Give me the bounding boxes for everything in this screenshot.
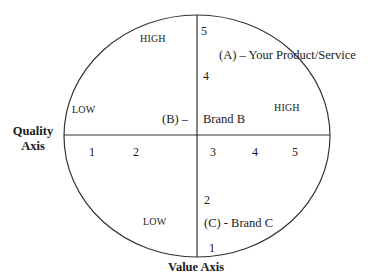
- quality-tick-1: 1: [89, 146, 95, 158]
- quality-axis-title: Quality Axis: [8, 125, 58, 152]
- value-tick-1: 1: [209, 242, 215, 254]
- point-c-label: (C) - Brand C: [204, 217, 273, 230]
- value-tick-4: 4: [203, 70, 209, 82]
- quality-axis-title-line1: Quality: [8, 125, 58, 138]
- value-high-label: HIGH: [140, 34, 166, 44]
- quality-low-label: LOW: [72, 105, 95, 115]
- value-low-label: LOW: [143, 217, 166, 227]
- quality-tick-4: 4: [252, 146, 258, 158]
- value-tick-2: 2: [204, 194, 210, 206]
- quality-axis-title-line2: Axis: [8, 140, 58, 153]
- point-b-label: Brand B: [203, 113, 245, 126]
- perceptual-map: HIGH LOW HIGH LOW 5 4 2 1 1 2 3 4 5 (A) …: [0, 0, 370, 280]
- quality-tick-2: 2: [133, 146, 139, 158]
- point-a-label: (A) – Your Product/Service: [219, 49, 356, 62]
- value-axis-title: Value Axis: [168, 261, 224, 274]
- quality-high-label: HIGH: [274, 103, 300, 113]
- quality-tick-5: 5: [292, 146, 298, 158]
- quality-tick-3: 3: [210, 146, 216, 158]
- value-tick-5: 5: [201, 25, 207, 37]
- point-b-prefix: (B) –: [162, 113, 188, 126]
